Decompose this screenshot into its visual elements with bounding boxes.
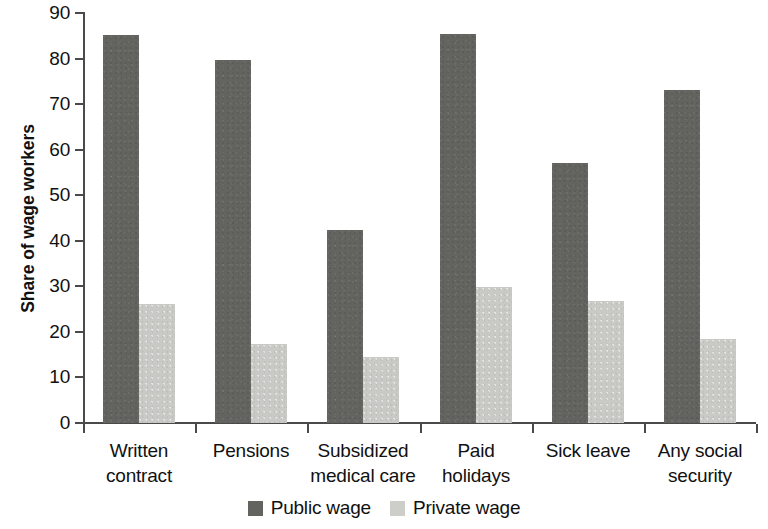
y-axis-tick-label: 0 [8,412,70,434]
y-axis-tick-label: 90 [8,2,70,24]
x-axis-label-line: Written [83,438,195,463]
x-axis-label-line: Sick leave [532,438,644,463]
y-axis-tick-label: 20 [8,321,70,343]
legend-item-public[interactable]: Public wage [248,497,371,519]
y-axis-tick-label: 10 [8,366,70,388]
y-axis-tick-label: 70 [8,93,70,115]
y-axis-tick [75,331,83,333]
bar-private-2 [363,357,399,423]
x-axis-tick [420,424,422,433]
x-axis-label-2: Subsidizedmedical care [307,438,419,488]
y-axis-tick-label: 80 [8,48,70,70]
x-axis-tick [756,424,758,433]
y-axis-tick [75,58,83,60]
legend-label: Public wage [271,497,371,519]
bar-private-4 [588,301,624,423]
x-axis-label-line: security [644,463,756,488]
bar-private-1 [251,344,287,423]
x-axis-label-line: Subsidized [307,438,419,463]
bar-public-2 [327,230,363,423]
x-axis-label-line: contract [83,463,195,488]
x-axis-tick [195,424,197,433]
x-axis-tick [83,424,85,433]
plot-area [83,13,756,423]
y-axis-tick [75,12,83,14]
legend-item-private[interactable]: Private wage [390,497,520,519]
x-axis-label-1: Pensions [195,438,307,463]
y-axis-tick [75,103,83,105]
bar-private-0 [139,304,175,423]
y-axis-tick-label: 50 [8,184,70,206]
y-axis-title: Share of wage workers [18,99,39,339]
x-axis-tick [644,424,646,433]
y-axis-tick [75,422,83,424]
y-axis-tick [75,194,83,196]
bar-private-3 [476,287,512,423]
x-axis-label-line: Paid [420,438,532,463]
x-axis-label-line: medical care [307,463,419,488]
bar-public-1 [215,60,251,423]
y-axis-tick-label: 40 [8,230,70,252]
x-axis-label-3: Paidholidays [420,438,532,488]
y-axis-tick [75,376,83,378]
chart-legend: Public wagePrivate wage [0,497,768,519]
y-axis-tick-label: 30 [8,275,70,297]
bar-public-3 [440,34,476,423]
bar-public-4 [552,163,588,423]
x-axis-label-line: holidays [420,463,532,488]
x-axis-tick [307,424,309,433]
y-axis-tick-label: 60 [8,139,70,161]
x-axis-label-line: Any social [644,438,756,463]
bar-public-0 [103,35,139,423]
y-axis-tick [75,285,83,287]
x-axis-label-4: Sick leave [532,438,644,463]
x-axis-label-line: Pensions [195,438,307,463]
legend-swatch-icon-private [390,501,405,516]
y-axis-tick [75,149,83,151]
legend-label: Private wage [413,497,520,519]
y-axis-tick [75,240,83,242]
legend-swatch-icon-public [248,501,263,516]
bar-public-5 [664,90,700,423]
x-axis-label-0: Writtencontract [83,438,195,488]
bar-chart: Share of wage workers 908070605040302010… [0,0,768,529]
x-axis-tick [532,424,534,433]
bar-private-5 [700,339,736,423]
x-axis-label-5: Any socialsecurity [644,438,756,488]
